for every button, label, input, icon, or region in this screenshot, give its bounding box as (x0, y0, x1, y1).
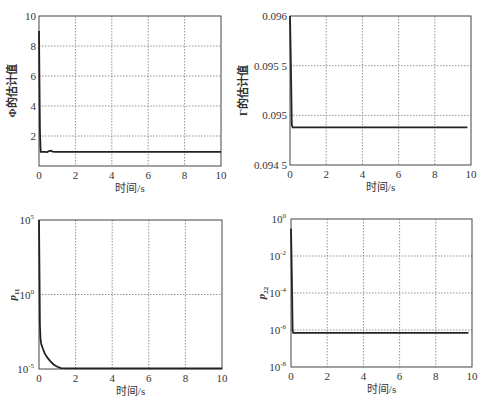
subplot-phi: 0246810246810时间/sΦ的估计值 (5, 10, 227, 194)
subplot-gamma: 02468100.094 50.0950.095 50.096时间/sΓ的估计值 (236, 10, 477, 193)
x-tick-label: 10 (466, 168, 478, 180)
x-tick-label: 10 (217, 372, 229, 384)
x-tick-label: 2 (323, 168, 329, 180)
y-tick-label: 0.095 5 (254, 60, 288, 72)
x-axis-label: 时间/s (116, 385, 145, 397)
subplot-p11: 024681010-5100105时间/sp11 (6, 213, 228, 397)
x-axis-label: 时间/s (115, 182, 144, 194)
x-tick-label: 2 (73, 372, 79, 384)
x-tick-label: 10 (216, 169, 228, 181)
series-line-p22 (291, 229, 468, 333)
x-axis-label: 时间/s (366, 181, 395, 193)
x-tick-label: 0 (287, 168, 293, 180)
x-tick-label: 4 (361, 370, 367, 382)
x-tick-label: 8 (183, 372, 189, 384)
y-tick-label: 100 (272, 212, 287, 225)
x-tick-label: 0 (36, 169, 42, 181)
x-tick-label: 4 (109, 372, 115, 384)
x-tick-label: 8 (182, 169, 188, 181)
x-tick-label: 2 (324, 370, 330, 382)
y-tick-label: 0.095 (262, 109, 287, 121)
y-axis-label: p22 (255, 286, 270, 300)
y-tick-label: 100 (20, 288, 35, 301)
y-axis-label: Φ的估计值 (5, 64, 18, 117)
y-tick-label: 105 (20, 213, 35, 226)
plot-frame (290, 16, 471, 165)
y-tick-label: 10-2 (269, 249, 286, 262)
plot-frame (39, 16, 221, 166)
x-tick-label: 6 (397, 370, 403, 382)
y-tick-label: 4 (31, 100, 37, 112)
x-tick-label: 6 (145, 169, 151, 181)
y-tick-label: 10-8 (269, 360, 286, 373)
y-tick-label: 10-6 (269, 323, 286, 336)
x-tick-label: 0 (36, 372, 42, 384)
y-tick-label: 8 (31, 40, 37, 52)
y-tick-label: 10-5 (17, 362, 34, 375)
y-tick-label: 10 (25, 10, 37, 22)
y-tick-label: 0.096 (262, 10, 287, 22)
figure: 0246810246810时间/sΦ的估计值02468100.094 50.09… (0, 0, 485, 407)
y-tick-label: 6 (31, 70, 37, 82)
x-tick-label: 6 (396, 168, 402, 180)
x-tick-label: 4 (360, 168, 366, 180)
x-tick-label: 4 (109, 169, 115, 181)
x-tick-label: 8 (432, 168, 438, 180)
y-tick-label: 10-4 (269, 286, 286, 299)
x-tick-label: 0 (288, 370, 294, 382)
y-tick-label: 2 (31, 130, 37, 142)
series-line-gamma (290, 16, 467, 127)
y-axis-label: Γ的估计值 (236, 65, 249, 116)
x-tick-label: 8 (433, 370, 439, 382)
x-axis-label: 时间/s (367, 383, 396, 395)
x-tick-label: 6 (146, 372, 152, 384)
x-tick-label: 10 (467, 370, 479, 382)
series-line-phi (39, 31, 221, 152)
y-tick-label: 0.094 5 (254, 159, 288, 171)
x-tick-label: 2 (73, 169, 79, 181)
subplot-p22: 024681010-810-610-410-2100时间/sp22 (255, 212, 478, 395)
